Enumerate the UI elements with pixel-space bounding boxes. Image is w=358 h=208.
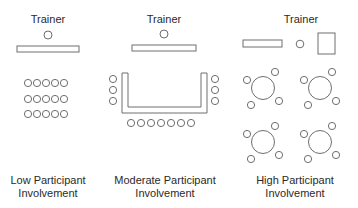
participant-seats — [109, 75, 218, 126]
round-table-group — [243, 68, 282, 108]
caption-low-line2: Involvement — [0, 187, 96, 200]
trainer-seat — [160, 30, 168, 38]
caption-high-line2: Involvement — [245, 187, 345, 200]
high-involvement-layout — [243, 33, 340, 163]
u-shaped-table — [122, 73, 207, 113]
participant-seats — [24, 79, 67, 117]
caption-moderate: Moderate Participant Involvement — [110, 174, 220, 200]
trainer-desk — [318, 33, 335, 54]
caption-moderate-line2: Involvement — [110, 187, 220, 200]
caption-low-line1: Low Participant — [0, 174, 96, 187]
side-table — [243, 40, 282, 47]
caption-high-line1: High Participant — [245, 174, 345, 187]
round-table-group — [300, 122, 339, 162]
trainer-table — [17, 46, 79, 52]
round-table-group — [300, 68, 339, 108]
trainer-label-moderate: Trainer — [144, 13, 184, 26]
trainer-seat — [44, 31, 52, 39]
caption-moderate-line1: Moderate Participant — [110, 174, 220, 187]
trainer-label-low: Trainer — [28, 13, 68, 26]
trainer-seat — [296, 40, 304, 48]
caption-low: Low Participant Involvement — [0, 174, 96, 200]
caption-high: High Participant Involvement — [245, 174, 345, 200]
low-involvement-layout — [17, 31, 79, 118]
trainer-table — [132, 45, 196, 51]
trainer-label-high: Trainer — [281, 13, 321, 26]
round-table-group — [243, 122, 282, 162]
moderate-involvement-layout — [109, 30, 218, 127]
